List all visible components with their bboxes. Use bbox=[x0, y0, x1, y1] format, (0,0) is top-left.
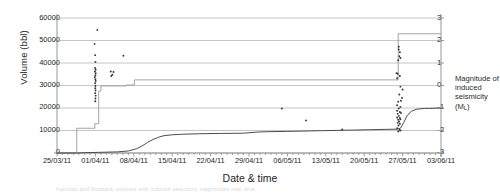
seismic-event-point bbox=[400, 100, 402, 102]
chart-container: Volume (bbl) 60000 50000 40000 30000 200… bbox=[0, 0, 500, 195]
seismic-event-point bbox=[398, 121, 400, 123]
x-axis-title: Date & time bbox=[0, 172, 500, 184]
seismic-event-point bbox=[399, 118, 401, 120]
seismic-event-point bbox=[94, 100, 96, 102]
figure-caption-faint: Injection and flowback volumes with indu… bbox=[56, 186, 496, 192]
seismic-event-point bbox=[94, 61, 96, 63]
seismic-event-point bbox=[113, 71, 115, 73]
seismic-event-point bbox=[397, 101, 399, 103]
seismic-event-point bbox=[95, 69, 97, 71]
seismic-event-point bbox=[95, 90, 97, 92]
seismic-event-point bbox=[397, 73, 399, 75]
seismic-event-point bbox=[399, 130, 401, 132]
seismic-event-point bbox=[341, 128, 343, 130]
seismic-event-point bbox=[399, 57, 401, 59]
seismic-event-point bbox=[94, 76, 96, 78]
seismic-event-point bbox=[399, 86, 401, 88]
seismic-event-point bbox=[94, 85, 96, 87]
seismic-event-point bbox=[401, 97, 403, 99]
seismic-event-point bbox=[396, 110, 398, 112]
seismic-event-point bbox=[398, 94, 400, 96]
seismic-event-point bbox=[94, 92, 96, 94]
seismic-event-point bbox=[398, 115, 400, 117]
plot-area bbox=[0, 0, 500, 195]
seismic-event-point bbox=[399, 51, 401, 53]
seismic-event-point bbox=[397, 122, 399, 124]
seismic-event-point bbox=[94, 82, 96, 84]
seismic-event-point bbox=[305, 119, 307, 121]
seismic-event-point bbox=[398, 125, 400, 127]
seismic-event-point bbox=[396, 117, 398, 119]
seismic-event-point bbox=[398, 108, 400, 110]
seismic-event-point bbox=[94, 54, 96, 56]
seismic-event-point bbox=[122, 55, 124, 57]
seismic-event-point bbox=[96, 29, 98, 31]
seismic-event-point bbox=[397, 59, 399, 61]
x-tick-label: 03/06/11 bbox=[414, 156, 468, 165]
seismic-event-point bbox=[94, 98, 96, 100]
seismic-event-point bbox=[399, 75, 401, 77]
seismic-event-point bbox=[398, 46, 400, 48]
seismic-event-point bbox=[110, 71, 112, 73]
seismic-event-point bbox=[396, 104, 398, 106]
seismic-event-point bbox=[400, 112, 402, 114]
seismic-event-point bbox=[397, 113, 399, 115]
seismic-event-point bbox=[95, 80, 97, 82]
seismic-event-point bbox=[110, 75, 112, 77]
seismic-event-point bbox=[95, 72, 97, 74]
seismic-event-point bbox=[396, 127, 398, 129]
seismic-event-point bbox=[397, 119, 399, 121]
seismic-event-point bbox=[402, 89, 404, 91]
seismic-event-point bbox=[94, 67, 96, 69]
seismic-event-point bbox=[397, 130, 399, 132]
seismic-event-point bbox=[94, 74, 96, 76]
seismic-event-point bbox=[398, 55, 400, 57]
seismic-event-point bbox=[399, 123, 401, 125]
seismic-event-point bbox=[281, 108, 283, 110]
seismic-event-point bbox=[94, 87, 96, 89]
seismic-event-point bbox=[95, 95, 97, 97]
seismic-event-point bbox=[396, 77, 398, 79]
series-line-0 bbox=[57, 34, 441, 153]
seismic-event-point bbox=[399, 106, 401, 108]
seismic-event-point bbox=[398, 49, 400, 51]
seismic-event-point bbox=[94, 43, 96, 45]
seismic-event-point bbox=[94, 78, 96, 80]
